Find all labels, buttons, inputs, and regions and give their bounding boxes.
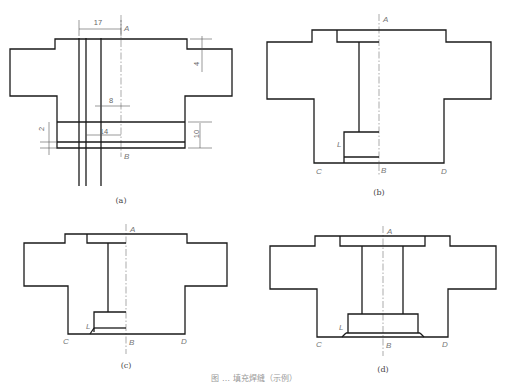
weld-figure-canvas: 174814102AB(a)ABCDL(b)ABCDL(c)ABCDL(d) 图… [0, 0, 508, 383]
point-label-d: D [442, 340, 448, 349]
point-label-a: A [382, 15, 388, 24]
point-label-l: L [337, 140, 341, 149]
point-label-a: A [386, 227, 392, 236]
figure-panels: 174814102AB(a)ABCDL(b)ABCDL(c)ABCDL(d) [10, 14, 496, 374]
panel-b: ABCDL(b) [267, 14, 491, 197]
point-label-l: L [339, 323, 343, 332]
weld-line [337, 30, 379, 42]
dimension-value: 14 [100, 127, 108, 136]
weld-line [340, 236, 425, 246]
point-label-a: A [129, 225, 135, 234]
point-label-b: B [124, 152, 130, 161]
point-label-c: C [63, 337, 69, 346]
panel-c: ABCDL(c) [24, 224, 227, 370]
point-label-d: D [441, 167, 447, 176]
point-label-l: L [86, 322, 90, 331]
dimension-value: 4 [192, 62, 201, 66]
dimension-value: 2 [37, 127, 46, 131]
point-label-b: B [386, 341, 392, 350]
point-label-b: B [381, 166, 387, 175]
part-outline [24, 234, 227, 334]
dimension-value: 8 [109, 96, 113, 105]
point-label-a: A [123, 24, 129, 33]
dimension: 4 [190, 36, 212, 72]
figure-caption: 图 … 填充焊缝（示例） [211, 373, 296, 383]
dimension: 10 [188, 122, 212, 148]
point-label-c: C [316, 340, 322, 349]
dimension-value: 10 [192, 130, 201, 138]
point-label-c: C [316, 167, 322, 176]
panel-d: ABCDL(d) [270, 226, 496, 374]
panel-caption: (b) [373, 188, 384, 197]
dimension: 14 [86, 127, 121, 136]
panel-caption: (a) [115, 196, 126, 205]
weld-line [344, 132, 379, 163]
dimension: 8 [95, 96, 130, 106]
weld-line [87, 234, 126, 243]
dimension-value: 17 [94, 18, 102, 27]
weld-line [94, 312, 126, 332]
panel-a: 174814102AB(a) [10, 15, 232, 205]
point-label-d: D [181, 337, 187, 346]
dimension: 17 [79, 18, 121, 36]
dimension: 2 [37, 122, 57, 155]
panel-caption: (d) [377, 365, 388, 374]
panel-caption: (c) [121, 361, 132, 370]
point-label-b: B [129, 338, 135, 347]
